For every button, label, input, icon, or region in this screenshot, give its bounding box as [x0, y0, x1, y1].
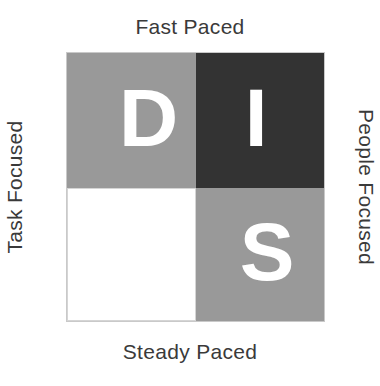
quadrant-letter-i: I — [245, 77, 268, 159]
axis-label-right: People Focused — [356, 109, 377, 265]
quadrant-d[interactable]: D — [67, 53, 196, 188]
quadrant-matrix: D I C S — [66, 52, 325, 322]
axis-label-bottom: Steady Paced — [0, 341, 380, 362]
quadrant-s[interactable]: S — [196, 188, 324, 321]
axis-label-top: Fast Paced — [0, 16, 380, 37]
quadrant-i[interactable]: I — [196, 53, 324, 188]
quadrant-letter-d: D — [119, 77, 178, 159]
quadrant-letter-s: S — [240, 211, 295, 293]
quadrant-letter-c: C — [114, 213, 173, 295]
axis-label-left: Task Focused — [4, 120, 25, 253]
disc-quadrant-diagram: Fast Paced Task Focused People Focused S… — [0, 0, 380, 386]
quadrant-c[interactable]: C — [67, 188, 196, 321]
